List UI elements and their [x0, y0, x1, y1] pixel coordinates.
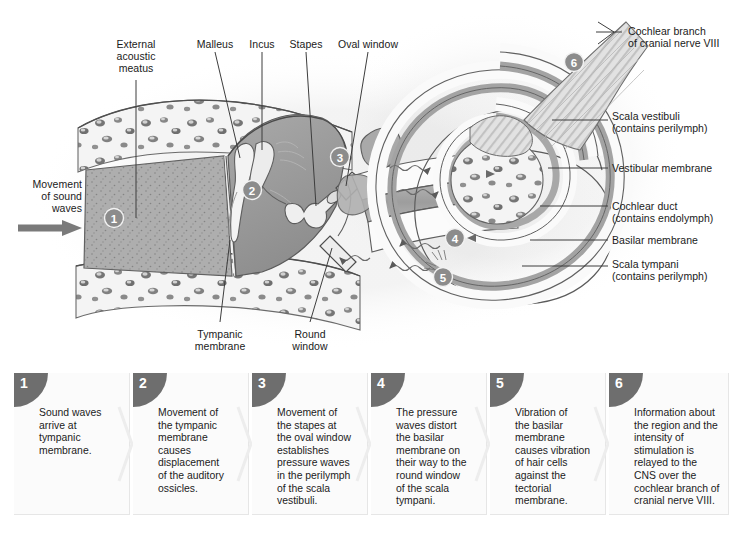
step-box-2[interactable]: 2 Movement of the tympanic membrane caus…	[133, 373, 249, 515]
svg-text:5: 5	[440, 272, 447, 284]
step-text-6: Information about the region and the int…	[634, 407, 723, 508]
marker-4: 4	[446, 229, 465, 248]
svg-text:2: 2	[249, 185, 255, 197]
step-number-5: 5	[496, 375, 504, 392]
step-box-5[interactable]: 5 Vibration of the basilar membrane caus…	[490, 373, 606, 515]
svg-text:1: 1	[111, 213, 118, 225]
step-number-4: 4	[377, 375, 385, 392]
label-scala-vestibuli: Scala vestibuli (contains perilymph)	[612, 110, 730, 134]
step-box-6[interactable]: 6 Information about the region and the i…	[609, 373, 729, 515]
marker-5: 5	[434, 268, 453, 287]
svg-text:6: 6	[571, 57, 577, 69]
label-malleus: Malleus	[191, 38, 239, 50]
step-text-3: Movement of the stapes at the oval windo…	[277, 407, 362, 508]
step-text-2: Movement of the tympanic membrane causes…	[158, 407, 243, 495]
label-oval-window: Oval window	[331, 38, 405, 50]
step-number-3: 3	[258, 375, 266, 392]
process-steps-strip: 1 Sound waves arrive at tympanic membran…	[0, 368, 734, 544]
hearing-process-figure: 1 2 3 4 5 6	[0, 0, 734, 544]
svg-text:3: 3	[337, 152, 343, 164]
step-box-3[interactable]: 3 Movement of the stapes at the oval win…	[252, 373, 368, 515]
label-round-window: Round window	[283, 328, 337, 352]
label-basilar-membrane: Basilar membrane	[612, 234, 730, 246]
label-tympanic-membrane: Tympanic membrane	[187, 328, 253, 352]
marker-2: 2	[243, 181, 262, 200]
step-text-1: Sound waves arrive at tympanic membrane.	[39, 407, 124, 457]
step-number-2: 2	[139, 375, 147, 392]
label-stapes: Stapes	[284, 38, 328, 50]
ear-anatomy-diagram: 1 2 3 4 5 6	[0, 0, 734, 368]
marker-1: 1	[105, 209, 124, 228]
label-movement-of-sound-waves: Movement of sound waves	[16, 178, 82, 215]
label-vestibular-membrane: Vestibular membrane	[612, 162, 734, 174]
label-cochlear-branch-of-cranial-nerve-viii: Cochlear branch of cranial nerve VIII	[628, 25, 734, 49]
label-incus: Incus	[243, 38, 281, 50]
marker-6: 6	[565, 53, 584, 72]
svg-text:4: 4	[452, 233, 459, 245]
step-text-5: Vibration of the basilar membrane causes…	[515, 407, 600, 508]
step-box-4[interactable]: 4 The pressure waves distort the basilar…	[371, 373, 487, 515]
step-number-6: 6	[615, 375, 623, 392]
label-external-acoustic-meatus: External acoustic meatus	[103, 38, 169, 75]
label-cochlear-duct: Cochlear duct (contains endolymph)	[612, 200, 734, 224]
step-number-1: 1	[20, 375, 28, 392]
step-text-4: The pressure waves distort the basilar m…	[396, 407, 481, 508]
marker-3: 3	[331, 148, 350, 167]
label-scala-tympani: Scala tympani (contains perilymph)	[612, 258, 730, 282]
step-box-1[interactable]: 1 Sound waves arrive at tympanic membran…	[14, 373, 130, 515]
